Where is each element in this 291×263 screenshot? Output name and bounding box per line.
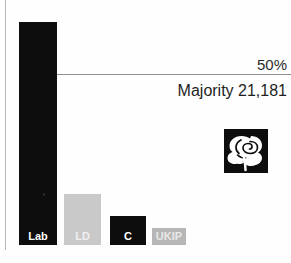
- threshold-label: 50%: [257, 56, 287, 73]
- bar-lab-body: [19, 22, 57, 245]
- bar-c[interactable]: C: [110, 216, 146, 245]
- scan-speck: [40, 237, 42, 239]
- bar-ukip-label: UKIP: [152, 228, 186, 245]
- threshold-line-50: [57, 74, 291, 75]
- majority-label: Majority 21,181: [178, 82, 287, 100]
- bar-lab-label: Lab: [19, 228, 57, 245]
- rose-icon: [221, 126, 271, 176]
- bar-ld-label: LD: [64, 228, 101, 245]
- bar-c-label: C: [110, 228, 146, 245]
- bar-ld[interactable]: LD: [64, 194, 101, 245]
- scan-speck: [43, 193, 45, 196]
- bar-ukip[interactable]: UKIP: [152, 228, 186, 245]
- bar-lab[interactable]: Lab: [19, 22, 57, 245]
- election-result-bar-chart: 50% Majority 21,181 Lab LD C: [0, 0, 291, 263]
- left-gutter-rule: [5, 0, 6, 250]
